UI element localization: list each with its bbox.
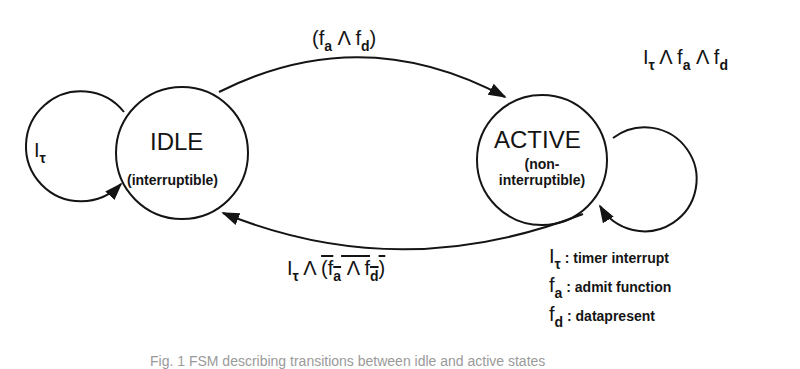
idle-state-subtitle: (interruptible)	[127, 172, 218, 188]
active-state-subtitle-line1: (non-	[497, 156, 587, 172]
idle-loop-label: Iτ	[34, 140, 46, 165]
active-to-idle-label: Iτ Λ (fa Λ fd)	[287, 258, 385, 283]
idle-state-name: IDLE	[150, 130, 203, 154]
figure-caption: Fig. 1 FSM describing transitions betwee…	[150, 354, 545, 368]
legend-item-timer-interrupt: Iτ : timer interrupt	[549, 246, 669, 271]
active-state-subtitle: (non- interruptible)	[497, 156, 587, 188]
legend-item-admit-function: fa : admit function	[549, 275, 671, 300]
active-state-name: ACTIVE	[494, 128, 581, 152]
legend-item-datapresent: fd : datapresent	[549, 304, 655, 329]
negated-condition: (fa Λ fd)	[321, 257, 385, 279]
active-self-loop	[600, 127, 697, 231]
idle-to-active-label: (fa Λ fd)	[312, 28, 376, 53]
active-loop-label: Iτ Λ fa Λ fd	[643, 47, 728, 72]
active-state-subtitle-line2: interruptible)	[497, 172, 587, 188]
idle-to-active-arrow	[219, 57, 505, 97]
